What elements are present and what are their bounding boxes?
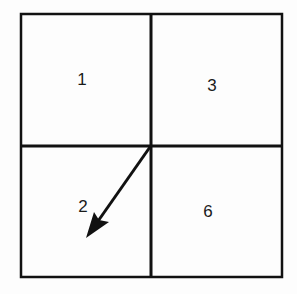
cell-2-label: 2 — [78, 197, 87, 216]
grid-diagram: 1 3 2 6 — [0, 0, 297, 294]
arrow-icon — [86, 147, 150, 238]
cell-1-label: 1 — [77, 70, 86, 89]
cell-3-label: 3 — [207, 76, 216, 95]
cell-6-label: 6 — [203, 202, 212, 221]
